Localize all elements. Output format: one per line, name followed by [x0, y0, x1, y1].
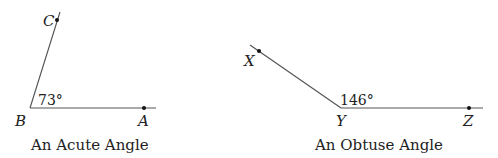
- point-x: [257, 49, 261, 53]
- label-z: Z: [462, 112, 474, 130]
- label-a: A: [136, 112, 149, 130]
- angle-measure-obtuse: 146°: [340, 92, 374, 108]
- point-c: [55, 18, 59, 22]
- label-y: Y: [336, 112, 348, 130]
- obtuse-angle-figure: X Y Z 146° An Obtuse Angle: [243, 45, 483, 154]
- label-b: B: [14, 112, 26, 130]
- angle-diagram: C B A 73° An Acute Angle X Y Z 146° An O…: [0, 0, 498, 158]
- caption-obtuse: An Obtuse Angle: [314, 136, 443, 154]
- caption-acute: An Acute Angle: [30, 136, 149, 154]
- acute-angle-figure: C B A 73° An Acute Angle: [14, 12, 156, 154]
- ray-yx: [250, 45, 341, 108]
- angle-measure-acute: 73°: [38, 92, 63, 108]
- point-a: [142, 106, 146, 110]
- point-z: [467, 106, 471, 110]
- label-x: X: [243, 52, 256, 70]
- label-c: C: [43, 12, 55, 30]
